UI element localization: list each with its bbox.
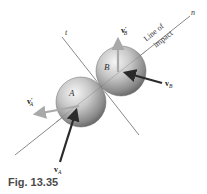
impact-diagram: n t Line of impact A B v′B vB v′A vA bbox=[0, 0, 207, 194]
v-a-label: vA bbox=[54, 165, 62, 175]
sphere-b-label: B bbox=[104, 62, 110, 72]
v-b-label: vB bbox=[165, 79, 173, 89]
v-a-prime-label: v′A bbox=[27, 97, 34, 107]
normal-axis-label: n bbox=[191, 8, 195, 17]
tangent-axis-label: t bbox=[65, 28, 68, 37]
figure-caption: Fig. 13.35 bbox=[8, 176, 58, 188]
v-b-prime-label: v′B bbox=[121, 26, 128, 36]
sphere-a-label: A bbox=[68, 88, 75, 98]
